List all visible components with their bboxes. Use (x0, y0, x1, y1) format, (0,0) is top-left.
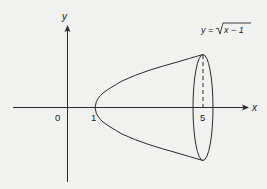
y-axis-label: y (61, 11, 68, 22)
tick-label-1: 1 (91, 112, 96, 123)
solid-of-revolution-diagram: y x 0 1 5 y = x − 1 (0, 0, 267, 189)
lower-curve (95, 108, 203, 161)
x-axis-label: x (251, 102, 258, 113)
equation-lhs: y = (200, 25, 213, 35)
origin-label: 0 (55, 112, 60, 123)
equation-radicand: x − 1 (223, 25, 244, 35)
curve-equation-label: y = x − 1 (200, 23, 251, 35)
tick-label-5: 5 (200, 112, 205, 123)
upper-curve (95, 55, 203, 108)
